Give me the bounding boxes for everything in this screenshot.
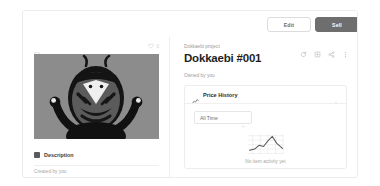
time-range-select[interactable]: All Time: [194, 111, 252, 124]
nft-artwork[interactable]: [34, 54, 159, 139]
refresh-icon[interactable]: [300, 44, 307, 51]
description-icon: [34, 152, 40, 158]
top-action-bar: Edit Sell: [23, 11, 358, 37]
price-history-title: Price History: [203, 92, 238, 98]
share-icon[interactable]: [328, 44, 335, 51]
heart-icon: [148, 43, 154, 49]
collection-link[interactable]: Dokkaebi project: [184, 44, 220, 49]
more-icon[interactable]: [342, 44, 349, 51]
dokkaebi-illustration: [34, 54, 159, 139]
view-icon[interactable]: [314, 44, 321, 51]
item-title: Dokkaebi #001: [184, 52, 261, 64]
favorite-count: 0: [156, 44, 159, 49]
description-label: Description: [44, 152, 74, 158]
owner-text: Owned by you: [184, 73, 215, 78]
time-range-value: All Time: [200, 115, 218, 121]
expand-icon[interactable]: [34, 44, 40, 50]
chevron-up-icon[interactable]: [333, 92, 339, 98]
price-history-empty-state: No item activity yet: [185, 128, 346, 168]
created-by-text: Created by you: [34, 169, 67, 174]
chevron-down-icon: [241, 115, 246, 120]
price-history-header[interactable]: Price History: [185, 86, 346, 103]
line-chart-icon: [247, 133, 285, 155]
content-body: 0: [23, 37, 358, 178]
media-column: 0: [23, 37, 170, 178]
edit-button[interactable]: Edit: [267, 17, 311, 32]
item-action-icons: [300, 44, 349, 51]
details-column: Dokkaebi project Dokkaebi #001 Owned by …: [170, 37, 358, 178]
sell-button[interactable]: Sell: [315, 17, 358, 32]
activity-chart-icon: [192, 91, 199, 98]
favorite-control[interactable]: 0: [148, 43, 159, 49]
price-history-empty-text: No item activity yet: [245, 159, 285, 164]
page-card: Edit Sell 0: [22, 10, 358, 178]
nft-item-detail-page: Edit Sell 0: [0, 0, 380, 186]
description-divider: [34, 165, 159, 166]
media-card-header: 0: [34, 42, 159, 54]
price-history-panel: Price History All Time: [184, 85, 347, 169]
description-header[interactable]: Description: [34, 149, 159, 161]
price-history-divider: [185, 103, 346, 104]
